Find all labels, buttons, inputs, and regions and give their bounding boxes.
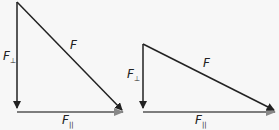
left-triangle — [17, 2, 123, 112]
right-triangle — [143, 44, 275, 112]
vectors-canvas — [0, 0, 279, 130]
force-vector — [143, 44, 274, 110]
left-force-label: F — [70, 39, 77, 51]
right-parallel-label: F|| — [195, 114, 207, 129]
left-perpendicular-label: F⊥ — [3, 50, 16, 65]
force-vector — [17, 2, 122, 110]
force-decomposition-figure: F⊥ F F|| F⊥ F F|| — [0, 0, 279, 130]
right-force-label: F — [203, 57, 210, 69]
right-perpendicular-label: F⊥ — [127, 68, 140, 83]
left-parallel-label: F|| — [62, 114, 74, 129]
